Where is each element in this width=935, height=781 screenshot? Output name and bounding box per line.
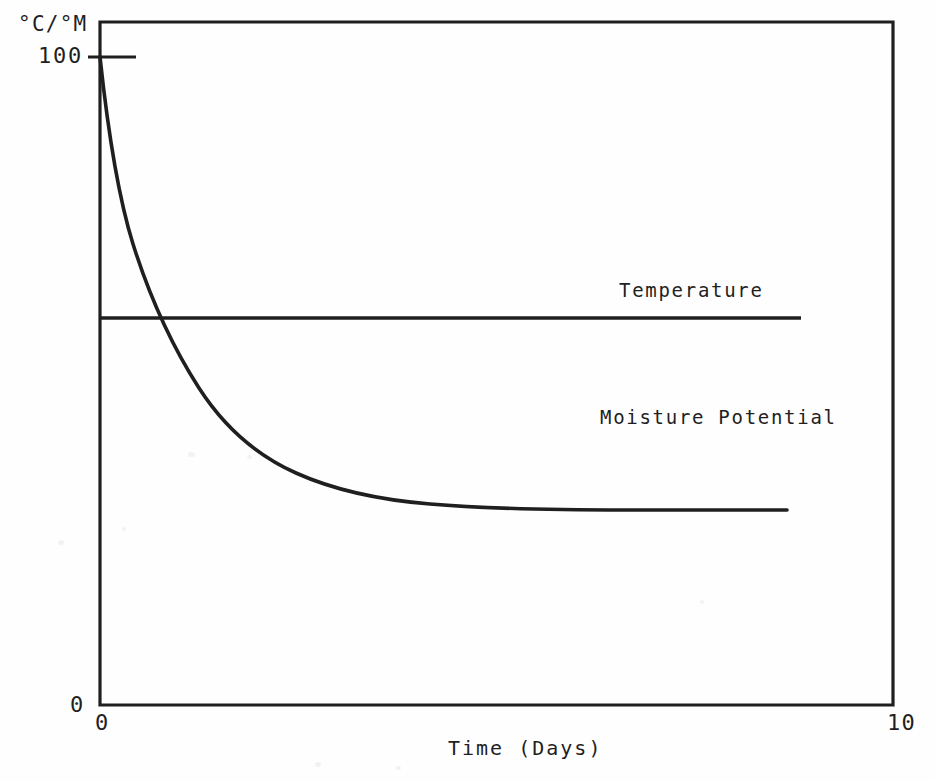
figure-canvas: °C/°M 100 0 0 10 Time (Days) Temperature… [0, 0, 935, 781]
y-axis-units-label: °C/°M [18, 14, 88, 35]
y-tick-label-0: 0 [70, 694, 84, 716]
y-tick-label-100: 100 [38, 45, 83, 67]
x-tick-label-0: 0 [95, 712, 109, 734]
x-axis-title: Time (Days) [448, 738, 602, 758]
series-label-temperature: Temperature [619, 281, 764, 300]
chart-plot-area [0, 0, 935, 781]
series-label-moisture-potential: Moisture Potential [600, 408, 837, 427]
plot-frame-border [100, 22, 893, 705]
x-tick-label-10: 10 [887, 712, 916, 734]
